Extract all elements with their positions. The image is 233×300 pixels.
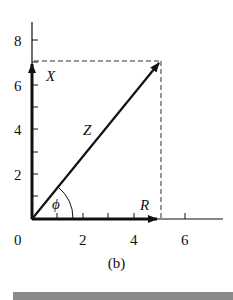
- x-tick-label: 0: [14, 232, 22, 248]
- y-tick-label: 2: [14, 167, 22, 183]
- bottom-bar: [13, 292, 233, 300]
- x-tick-label: 6: [181, 232, 189, 248]
- label-r: R: [139, 197, 149, 213]
- y-tick-label: 6: [14, 78, 22, 94]
- label-z: Z: [83, 122, 92, 138]
- x-tick-label: 2: [79, 232, 87, 248]
- y-tick-label: 8: [14, 33, 22, 49]
- angle-arc: [58, 187, 73, 219]
- x-tick-label: 4: [130, 232, 138, 248]
- figure-caption: (b): [0, 255, 233, 272]
- y-tick-label: 4: [14, 122, 22, 138]
- label-x: X: [45, 68, 56, 84]
- label-phi: ϕ: [52, 196, 60, 212]
